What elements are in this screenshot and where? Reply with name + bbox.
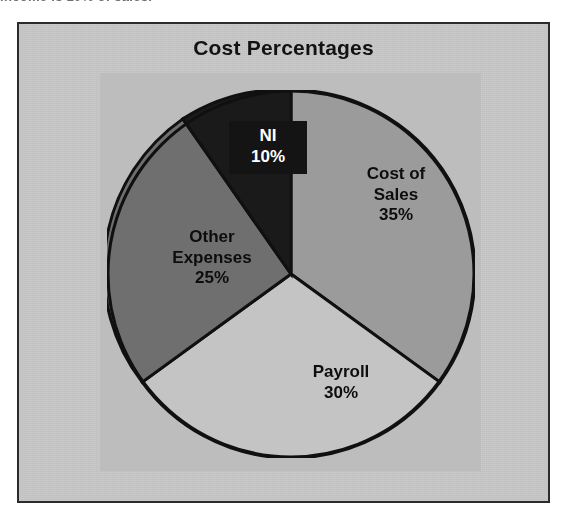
slice-label-payroll: Payroll 30% — [281, 362, 401, 403]
chart-title: Cost Percentages — [19, 36, 548, 60]
slice-label-other-expenses-percent: 25% — [147, 268, 277, 289]
slice-label-payroll-percent: 30% — [281, 383, 401, 404]
slice-label-other-expenses: Other Expenses 25% — [147, 227, 277, 289]
slice-label-ni: NI 10% — [229, 121, 307, 174]
slice-label-ni-name: NI — [260, 126, 277, 145]
slice-label-cost-of-sales-line1: Cost of — [367, 164, 426, 183]
slice-label-payroll-name: Payroll — [313, 362, 370, 381]
slice-label-other-expenses-line1: Other — [189, 227, 234, 246]
slice-label-cost-of-sales-line2: Sales — [374, 185, 418, 204]
chart-frame: Cost Percentages NI 10% Cost of Sales 35… — [17, 22, 550, 503]
slice-label-ni-percent: 10% — [229, 147, 307, 168]
slice-label-other-expenses-line2: Expenses — [172, 248, 251, 267]
clipped-page-text: income is 10% of sales. — [0, 0, 572, 5]
slice-label-cost-of-sales-percent: 35% — [344, 205, 448, 226]
slice-label-cost-of-sales: Cost of Sales 35% — [344, 164, 448, 226]
